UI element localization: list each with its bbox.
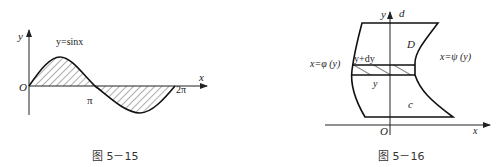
x-axis-label: x (199, 72, 204, 83)
y-axis-label: y (381, 9, 386, 20)
left-curve-label: x=φ (y) (310, 59, 340, 69)
right-curve-label: x=ψ (y) (440, 52, 471, 62)
x-axis-label: x (473, 126, 477, 136)
origin-label: O (380, 126, 388, 137)
strip-top-label: y+dy (354, 54, 375, 64)
tick-pi: π (87, 95, 93, 106)
figure-5-15: y y=sinx x O π 2π 图 5－15 (0, 0, 250, 167)
origin-label: O (19, 82, 27, 93)
sine-area-plot (0, 0, 250, 167)
caption: 图 5－15 (92, 147, 139, 163)
tick-2pi: 2π (176, 85, 186, 95)
region-label: D (407, 39, 415, 50)
y-axis-label: y (18, 31, 23, 42)
bottom-bound-label: c (408, 99, 413, 110)
curve-label: y=sinx (56, 37, 83, 47)
strip-hatch (352, 65, 415, 75)
figure-5-16: y d D y+dy y x=φ (y) x=ψ (y) c O x 图 5－1… (250, 0, 499, 167)
strip-bottom-label: y (373, 79, 377, 89)
caption: 图 5－16 (378, 147, 425, 163)
top-bound-label: d (399, 8, 405, 19)
